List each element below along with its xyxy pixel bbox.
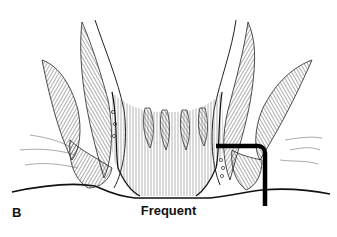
anatomy-illustration bbox=[0, 0, 337, 237]
figure-caption: Frequent bbox=[0, 204, 337, 217]
right-levator-muscle bbox=[256, 60, 312, 160]
right-external-sphincter bbox=[232, 150, 262, 190]
